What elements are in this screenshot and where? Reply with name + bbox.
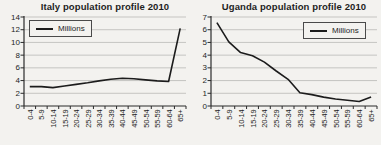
x-tick-label: 15-19 bbox=[247, 109, 258, 139]
x-tick-label: 35-39 bbox=[105, 109, 116, 139]
y-tick-label: 5 bbox=[191, 38, 207, 47]
y-tick-label: 3 bbox=[191, 63, 207, 72]
y-tick-label: 0 bbox=[0, 102, 20, 111]
y-tick-label: 14 bbox=[0, 13, 20, 22]
x-tick-label: 15-19 bbox=[59, 109, 70, 139]
x-tick-label: 60-64 bbox=[354, 109, 365, 139]
y-tick-label: 6 bbox=[191, 25, 207, 34]
y-tick-label: 10 bbox=[0, 38, 20, 47]
x-tick-label: 30-34 bbox=[283, 109, 294, 139]
y-tick-label: 2 bbox=[191, 76, 207, 85]
y-tick-label: 7 bbox=[191, 13, 207, 22]
y-tick-label: 2 bbox=[0, 89, 20, 98]
x-tick-label: 0-4 bbox=[24, 109, 35, 139]
x-tick-label: 10-14 bbox=[235, 109, 246, 139]
x-tick-label: 35-39 bbox=[294, 109, 305, 139]
x-tick-label: 65+ bbox=[366, 109, 377, 139]
scanned-charts-page: Italy population profile 2010 Millions 0… bbox=[0, 0, 381, 145]
x-tick-label: 45-49 bbox=[318, 109, 329, 139]
chart-panel-italy: Italy population profile 2010 Millions 0… bbox=[0, 0, 190, 145]
chart-title-italy: Italy population profile 2010 bbox=[24, 1, 186, 12]
legend-line-sample bbox=[310, 30, 327, 32]
x-tick-label: 55-59 bbox=[342, 109, 353, 139]
x-tick-label: 40-44 bbox=[306, 109, 317, 139]
x-tick-label: 50-54 bbox=[140, 109, 151, 139]
y-tick-label: 0 bbox=[191, 102, 207, 111]
y-tick-label: 4 bbox=[0, 76, 20, 85]
x-tick-label: 20-24 bbox=[71, 109, 82, 139]
x-tick-label: 45-49 bbox=[128, 109, 139, 139]
y-tick-label: 8 bbox=[0, 51, 20, 60]
y-tick-label: 1 bbox=[191, 89, 207, 98]
x-tick-label: 40-44 bbox=[117, 109, 128, 139]
legend-italy: Millions bbox=[29, 20, 92, 37]
legend-line-sample bbox=[36, 28, 53, 30]
y-tick-label: 12 bbox=[0, 25, 20, 34]
x-tick-label: 25-29 bbox=[82, 109, 93, 139]
x-tick-label: 55-59 bbox=[152, 109, 163, 139]
x-tick-label: 65+ bbox=[175, 109, 186, 139]
x-tick-label: 20-24 bbox=[259, 109, 270, 139]
legend-label: Millions bbox=[332, 27, 359, 35]
x-tick-label: 60-64 bbox=[163, 109, 174, 139]
data-line bbox=[30, 28, 180, 87]
y-tick-label: 6 bbox=[0, 63, 20, 72]
x-tick-label: 25-29 bbox=[271, 109, 282, 139]
y-tick-label: 4 bbox=[191, 51, 207, 60]
x-tick-label: 10-14 bbox=[47, 109, 58, 139]
x-tick-label: 5-9 bbox=[223, 109, 234, 139]
x-tick-label: 50-54 bbox=[330, 109, 341, 139]
x-tick-label: 30-34 bbox=[94, 109, 105, 139]
x-tick-label: 5-9 bbox=[36, 109, 47, 139]
chart-title-uganda: Uganda population profile 2010 bbox=[211, 1, 377, 12]
legend-label: Millions bbox=[58, 25, 85, 33]
legend-uganda: Millions bbox=[303, 22, 366, 39]
chart-panel-uganda: Uganda population profile 2010 Millions … bbox=[191, 0, 381, 145]
x-tick-label: 0-4 bbox=[211, 109, 222, 139]
